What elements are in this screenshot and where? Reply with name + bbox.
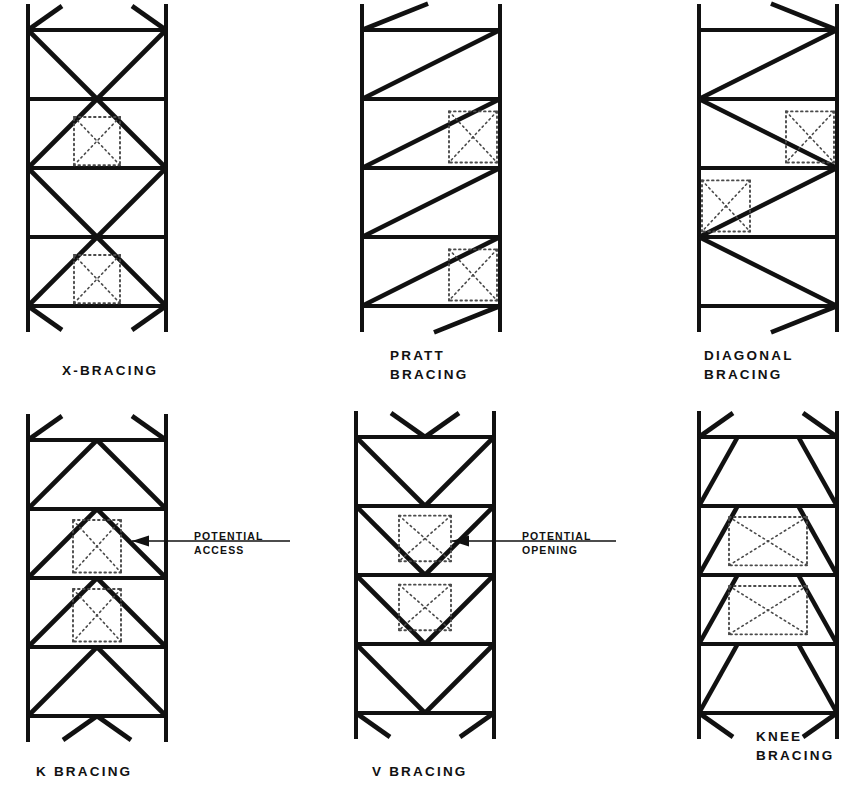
v-bracing-stub-tr bbox=[425, 413, 459, 437]
x-bracing-x-a-1 bbox=[28, 99, 97, 168]
caption-pratt-bracing: PRATT BRACING bbox=[390, 346, 468, 384]
bracing-reference-sheet: X-BRACING PRATT BRACING DIAGONAL BRACING… bbox=[0, 0, 863, 801]
pratt-bracing-pratt-1 bbox=[362, 99, 500, 168]
diagonal-bracing-diag-3 bbox=[699, 237, 837, 306]
k-bracing-stub-br bbox=[97, 716, 131, 740]
diagonal-bracing-stub-top bbox=[771, 4, 837, 30]
k-bracing-k-a-0 bbox=[28, 440, 97, 509]
x-bracing-stub-tr bbox=[132, 6, 166, 30]
k-bracing-k-b-0 bbox=[97, 440, 166, 509]
caption-v-bracing: V BRACING bbox=[372, 762, 468, 781]
x-bracing-x-b-0 bbox=[97, 30, 166, 99]
k-bracing-k-a-1 bbox=[28, 509, 97, 578]
x-bracing-stub-tl bbox=[28, 6, 62, 30]
x-bracing-x-a-2 bbox=[28, 168, 97, 237]
x-bracing-x-b-3 bbox=[97, 237, 166, 306]
v-bracing-stub-tl bbox=[391, 413, 425, 437]
diagonal-bracing-diag-0 bbox=[699, 30, 837, 99]
pratt-bracing-pratt-2 bbox=[362, 168, 500, 237]
x-bracing-x-a-3 bbox=[28, 237, 97, 306]
bracing-diagrams-canvas bbox=[0, 0, 863, 801]
k-bracing-stub-tr bbox=[132, 416, 166, 440]
k-bracing-stub-tl bbox=[28, 416, 62, 440]
knee-bracing-knee-a-0 bbox=[699, 437, 738, 506]
v-bracing-v-a-0 bbox=[356, 437, 425, 506]
caption-diagonal-bracing: DIAGONAL BRACING bbox=[704, 346, 794, 384]
x-bracing-x-b-1 bbox=[97, 99, 166, 168]
v-bracing-v-a-3 bbox=[356, 644, 425, 713]
caption-k-bracing: K BRACING bbox=[36, 762, 132, 781]
diagonal-bracing-stub-bot bbox=[771, 306, 837, 332]
k-bracing-k-a-3 bbox=[28, 647, 97, 716]
knee-bracing-stub-tl bbox=[699, 413, 733, 437]
knee-bracing-open-2-ghost-b bbox=[729, 586, 807, 634]
v-bracing-v-b-3 bbox=[425, 644, 494, 713]
callout-potential-opening: POTENTIAL OPENING bbox=[522, 529, 591, 557]
knee-bracing-knee-b-0 bbox=[798, 437, 837, 506]
x-bracing-x-a-0 bbox=[28, 30, 97, 99]
caption-knee-bracing: KNEE BRACING bbox=[756, 727, 834, 765]
knee-bracing-stub-bl bbox=[699, 713, 733, 737]
caption-x-bracing: X-BRACING bbox=[62, 361, 158, 380]
v-bracing-stub-bl bbox=[356, 713, 390, 737]
x-bracing-stub-bl bbox=[28, 306, 62, 330]
pratt-bracing-pratt-3 bbox=[362, 237, 500, 306]
v-bracing-v-b-0 bbox=[425, 437, 494, 506]
pratt-bracing-stub-bot bbox=[434, 306, 500, 332]
k-bracing-k-b-3 bbox=[97, 647, 166, 716]
callout-potential-access: POTENTIAL ACCESS bbox=[194, 529, 263, 557]
knee-bracing-open-1-ghost-b bbox=[729, 517, 807, 565]
knee-bracing-stub-tr bbox=[803, 413, 837, 437]
x-bracing-x-b-2 bbox=[97, 168, 166, 237]
pratt-bracing-pratt-0 bbox=[362, 30, 500, 99]
diagonal-bracing-diag-1 bbox=[699, 99, 837, 168]
diagonal-bracing-diag-2 bbox=[699, 168, 837, 237]
knee-bracing-knee-a-3 bbox=[699, 644, 738, 713]
v-bracing-stub-br bbox=[460, 713, 494, 737]
x-bracing-stub-br bbox=[132, 306, 166, 330]
knee-bracing-knee-b-3 bbox=[798, 644, 837, 713]
k-bracing-k-a-2 bbox=[28, 578, 97, 647]
k-bracing-stub-bl bbox=[63, 716, 97, 740]
pratt-bracing-stub-top bbox=[362, 4, 428, 30]
